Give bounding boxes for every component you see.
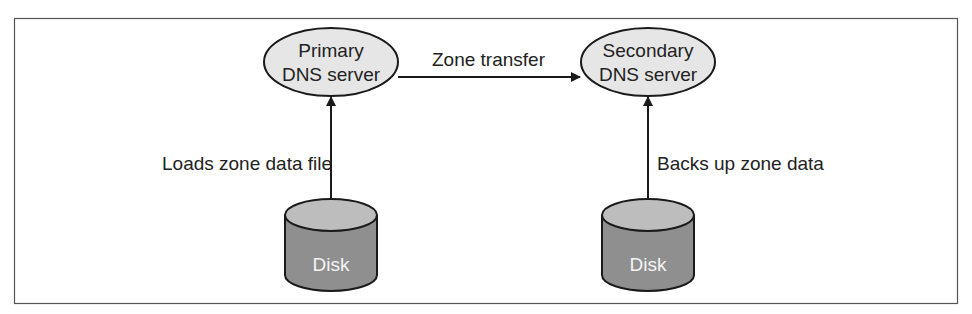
disk-right-label: Disk [630,254,667,275]
zone-transfer-label: Zone transfer [432,49,546,70]
primary-line2: DNS server [282,64,381,85]
loads-edge: Loads zone data file [162,97,332,203]
dns-zone-diagram: Primary DNS server Secondary DNS server … [0,0,972,314]
secondary-dns-server-node: Secondary DNS server [581,28,715,96]
disk-left-icon: Disk [285,199,377,291]
disk-left-label: Disk [313,254,350,275]
primary-dns-server-node: Primary DNS server [264,28,398,96]
zone-transfer-edge: Zone transfer [398,49,580,77]
secondary-line1: Secondary [603,40,694,61]
primary-line1: Primary [298,40,364,61]
backs-up-label: Backs up zone data [657,153,824,174]
loads-label: Loads zone data file [162,153,332,174]
backs-up-edge: Backs up zone data [648,97,824,203]
secondary-line2: DNS server [599,64,698,85]
disk-right-icon: Disk [602,199,694,291]
